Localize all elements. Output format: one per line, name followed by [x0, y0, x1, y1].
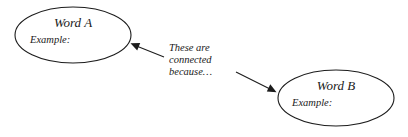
node-word-b[interactable]: Word B Example:	[278, 70, 394, 126]
node-title-word-b: Word B	[317, 78, 355, 93]
arrow-to-word-a	[131, 43, 165, 57]
caption-line-1: These are	[169, 42, 210, 53]
caption-line-3: because…	[169, 66, 212, 77]
concept-map-diagram: Word A Example: Word B Example: These ar…	[0, 0, 408, 137]
caption-line-2: connected	[169, 54, 212, 65]
connection-caption: These are connected because…	[169, 42, 212, 77]
node-example-label-word-a: Example:	[29, 34, 70, 45]
node-example-label-word-b: Example:	[291, 97, 332, 108]
node-word-a[interactable]: Word A Example:	[15, 7, 131, 63]
arrow-shaft-to-word-b	[236, 72, 272, 90]
arrow-to-word-b	[236, 72, 277, 92]
node-title-word-a: Word A	[54, 15, 92, 30]
diagram-canvas: Word A Example: Word B Example: These ar…	[0, 0, 408, 137]
